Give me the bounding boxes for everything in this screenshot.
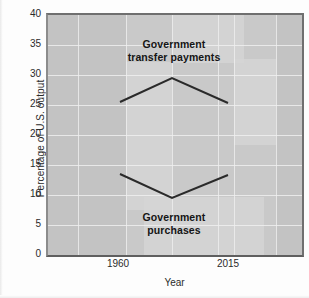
x-axis-label-text: Year bbox=[164, 277, 184, 288]
y-tick-label-35: 35 bbox=[1, 38, 46, 49]
y-tick-label-5: 5 bbox=[1, 218, 46, 229]
x-tick-label-1960: 1960 bbox=[107, 258, 129, 269]
line-government-purchases bbox=[120, 174, 228, 198]
y-tick-label-30: 30 bbox=[1, 68, 46, 79]
chart-figure: Percentage of U.S. output 0 5 10 15 20 2… bbox=[0, 0, 309, 298]
y-tick-label-15: 15 bbox=[1, 158, 46, 169]
line-government-transfer-payments bbox=[120, 78, 228, 103]
series-label-line1: Government bbox=[104, 38, 244, 51]
y-tick-label-0: 0 bbox=[1, 248, 46, 259]
series-label-line2: transfer payments bbox=[104, 51, 244, 64]
y-tick-label-40: 40 bbox=[1, 8, 46, 19]
y-tick-label-10: 10 bbox=[1, 188, 46, 199]
y-tick-label-20: 20 bbox=[1, 128, 46, 139]
x-axis-label: Year bbox=[0, 277, 309, 288]
plot-area: Government transfer payments Government … bbox=[46, 13, 304, 257]
series-label-government-transfer-payments: Government transfer payments bbox=[104, 38, 244, 64]
series-label-line1: Government bbox=[104, 211, 244, 224]
series-label-line2: purchases bbox=[104, 224, 244, 237]
x-tick-label-2015: 2015 bbox=[217, 258, 239, 269]
y-tick-label-25: 25 bbox=[1, 98, 46, 109]
series-label-government-purchases: Government purchases bbox=[104, 211, 244, 237]
